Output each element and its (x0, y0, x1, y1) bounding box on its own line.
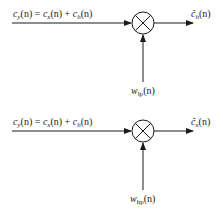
highpass-block (12, 120, 193, 190)
diagram-canvas (0, 0, 223, 216)
output-label: ĉh(n) (191, 9, 211, 21)
window-label: whp(n) (130, 194, 155, 206)
window-label: wlp(n) (131, 86, 155, 98)
input-equation-label: cy(n) = cx(n) + ch(n) (13, 9, 92, 21)
input-equation-label: cy(n) = cx(n) + ch(n) (13, 117, 92, 129)
output-label: ĉx(n) (191, 117, 210, 129)
multiplier-icon (132, 120, 154, 142)
lowpass-block (12, 12, 193, 82)
multiplier-icon (132, 12, 154, 34)
